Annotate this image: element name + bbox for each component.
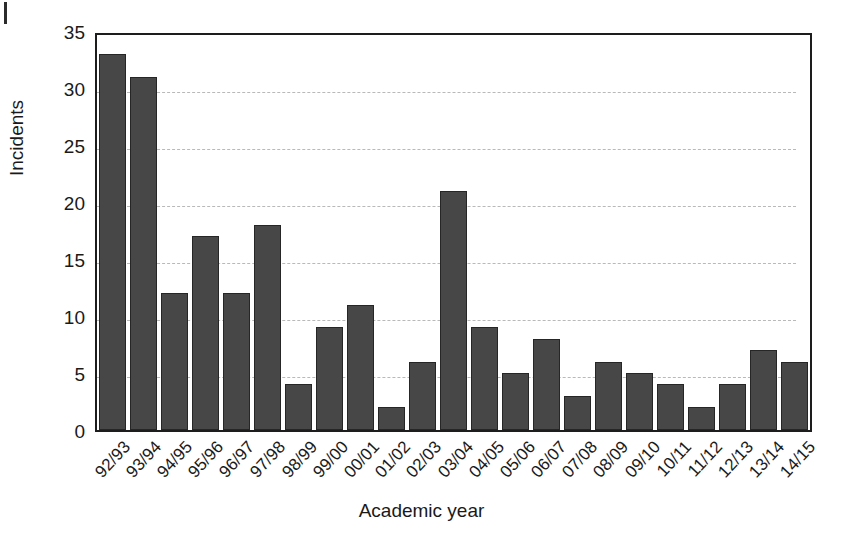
bars-container [97,35,810,430]
bar[interactable] [192,236,218,430]
bar[interactable] [223,293,249,430]
x-axis-tick-label-text: 01/02 [372,438,413,481]
bar-slot [97,35,128,430]
bar-slot [748,35,779,430]
bar[interactable] [471,327,497,430]
bar[interactable] [781,362,807,430]
x-axis-tick-label-text: 98/99 [279,438,320,481]
bar-slot [407,35,438,430]
bar-slot [159,35,190,430]
bar[interactable] [99,54,125,430]
bar-slot [221,35,252,430]
y-axis-tick-label: 35 [39,23,85,42]
bar-slot [345,35,376,430]
bar[interactable] [564,396,590,430]
bar[interactable] [130,77,156,430]
bar[interactable] [657,384,683,430]
x-axis-tick-label-text: 94/95 [154,438,195,481]
bar-slot [190,35,221,430]
x-axis-tick-label-text: 12/13 [715,438,756,481]
bar-slot [562,35,593,430]
y-axis-tick-label: 25 [39,137,85,156]
bar[interactable] [316,327,342,430]
bar-chart-figure: Incidents 05101520253035 92/9393/9494/95… [0,0,843,544]
bar-slot [531,35,562,430]
x-axis-tick-label-text: 03/04 [434,438,475,481]
bar-slot [376,35,407,430]
bar-slot [314,35,345,430]
x-axis-tick-label-text: 96/97 [216,438,257,481]
bar[interactable] [688,407,714,430]
bar-slot [655,35,686,430]
y-axis-title: Incidents [0,0,34,184]
x-axis-tick-label-text: 10/11 [654,438,695,480]
bar-slot [128,35,159,430]
y-axis-tick-label: 20 [39,194,85,213]
bar-slot [283,35,314,430]
bar[interactable] [595,362,621,430]
y-axis-tick-label: 10 [39,308,85,327]
x-axis-tick-label-text: 05/06 [497,438,538,481]
x-axis-tick-label-text: 97/98 [247,438,288,481]
bar-slot [469,35,500,430]
x-axis-tick-label-text: 00/01 [341,438,382,481]
bar-slot [686,35,717,430]
bar[interactable] [161,293,187,430]
bar-slot [593,35,624,430]
x-axis-title: Academic year [0,500,843,522]
x-axis-tick-label-text: 07/08 [559,438,600,481]
x-axis-tick-label-text: 92/93 [92,438,133,481]
x-axis-tick-label-text: 06/07 [528,438,569,481]
bar[interactable] [440,191,466,430]
bar[interactable] [626,373,652,430]
bar[interactable] [533,339,559,430]
x-axis-tick-label-text: 14/15 [777,438,818,481]
plot-inner [97,35,810,430]
bar-slot [779,35,810,430]
y-axis-title-label: Incidents [6,100,28,176]
y-axis-tick-label: 30 [39,80,85,99]
y-axis-tick-label: 0 [39,422,85,441]
x-axis-tick-label-text: 08/09 [590,438,631,481]
bar[interactable] [750,350,776,430]
bar[interactable] [347,305,373,430]
bar[interactable] [378,407,404,430]
x-axis-tick-label-text: 13/14 [746,438,787,481]
y-axis-tick-label: 15 [39,251,85,270]
bar-slot [717,35,748,430]
bar[interactable] [719,384,745,430]
y-axis-tick-label: 5 [39,365,85,384]
x-axis-tick-label-text: 02/03 [403,438,444,481]
bar-slot [500,35,531,430]
bar[interactable] [254,225,280,430]
plot-area [95,33,812,432]
bar-slot [438,35,469,430]
x-axis-tick-labels: 92/9393/9494/9595/9696/9797/9898/9999/00… [95,436,812,496]
bar[interactable] [502,373,528,430]
bar[interactable] [285,384,311,430]
bar-slot [252,35,283,430]
bar[interactable] [409,362,435,430]
bar-slot [624,35,655,430]
x-axis-tick-label-text: 09/10 [622,438,663,481]
x-axis-tick-label-text: 95/96 [185,438,226,481]
x-axis-tick-label-text: 99/00 [310,438,351,481]
